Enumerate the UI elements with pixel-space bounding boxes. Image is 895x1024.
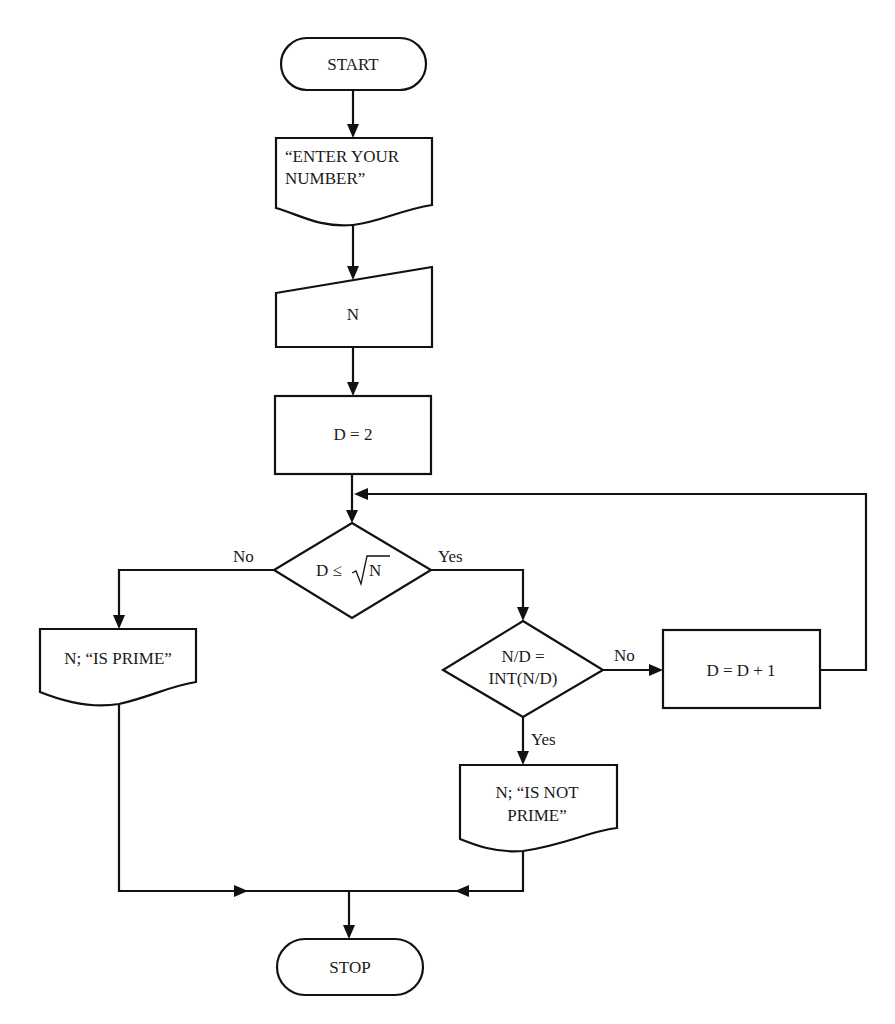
cond-sqrt-prefix: D ≤ [316, 561, 342, 580]
edge-merge-to-stop [343, 891, 355, 939]
input-n-label: N [347, 305, 359, 324]
arrowhead-icon [347, 382, 359, 396]
arrowhead-icon [649, 664, 663, 676]
increment-process: D = D + 1 [663, 630, 820, 708]
cond-sqrt-yes-label: Yes [438, 547, 463, 566]
print-prime-label: N; “IS PRIME” [64, 649, 172, 668]
cond-int-yes-label: Yes [531, 730, 556, 749]
arrowhead-icon [234, 885, 248, 897]
edge-prompt-to-input [347, 225, 359, 280]
cond-int-line-2: INT(N/D) [489, 669, 558, 688]
start-terminator: START [281, 38, 426, 90]
prompt-document: “ENTER YOUR NUMBER” [276, 138, 432, 225]
print-not-prime-line-1: N; “IS NOT [495, 783, 579, 802]
edge-start-to-prompt [347, 90, 359, 138]
print-prime-document: N; “IS PRIME” [40, 629, 196, 705]
stop-terminator: STOP [277, 939, 423, 995]
print-not-prime-line-2: PRIME” [507, 806, 567, 825]
cond-sqrt-no-label: No [233, 547, 254, 566]
arrowhead-icon [347, 124, 359, 138]
arrowhead-icon [455, 885, 469, 897]
edge-cond-sqrt-no: No [113, 547, 274, 629]
arrowhead-icon [346, 510, 358, 523]
cond-sqrt-radicand: N [369, 561, 381, 580]
cond-sqrt-decision: D ≤ N [274, 523, 431, 618]
edge-cond-sqrt-yes: Yes [431, 547, 529, 621]
arrowhead-icon [343, 925, 355, 939]
increment-label: D = D + 1 [706, 661, 775, 680]
arrowhead-icon [113, 615, 125, 629]
arrowhead-icon [354, 488, 368, 500]
init-d-process: D = 2 [275, 396, 431, 474]
print-not-prime-document: N; “IS NOT PRIME” [460, 765, 617, 851]
flowchart-canvas: START “ENTER YOUR NUMBER” N D = 2 [0, 0, 895, 1024]
cond-int-decision: N/D = INT(N/D) [443, 621, 603, 717]
stop-label: STOP [329, 958, 370, 977]
edge-input-to-init [347, 347, 359, 396]
start-label: START [327, 55, 379, 74]
arrowhead-icon [517, 751, 529, 765]
cond-int-no-label: No [614, 646, 635, 665]
arrowhead-icon [347, 266, 359, 280]
input-n-manual-input: N [276, 267, 432, 347]
cond-int-line-1: N/D = [501, 647, 544, 666]
prompt-line-1: “ENTER YOUR [285, 147, 400, 166]
edge-cond-int-no: No [603, 646, 663, 676]
init-d-label: D = 2 [334, 425, 373, 444]
edge-cond-int-yes: Yes [517, 717, 556, 765]
arrowhead-icon [517, 607, 529, 621]
prompt-line-2: NUMBER” [285, 169, 365, 188]
edge-init-to-cond [346, 474, 358, 523]
